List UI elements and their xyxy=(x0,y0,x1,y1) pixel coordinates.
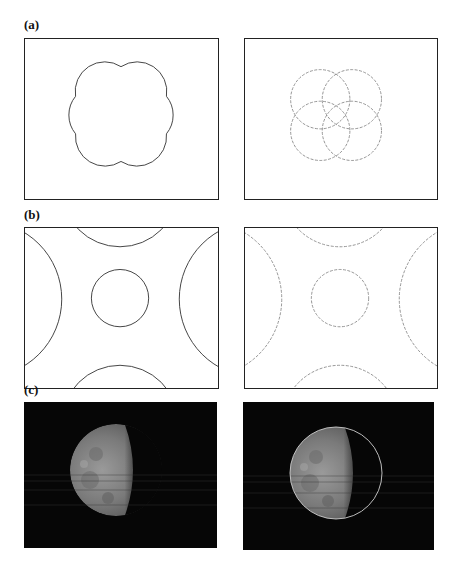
five-circles-dashed-figure xyxy=(245,228,437,388)
panel-b-right-five-circles-dashed xyxy=(244,227,438,389)
panel-c-left-moon-photo xyxy=(24,402,217,548)
row-label-b: (b) xyxy=(24,208,40,221)
panel-a-right-detected-circles xyxy=(244,38,438,200)
row-label-a: (a) xyxy=(24,18,39,31)
moon-photo-figure xyxy=(24,402,217,548)
cloverleaf-outline-figure xyxy=(25,39,218,199)
panel-c-right-moon-with-fit-circle xyxy=(243,402,434,550)
detected-circles-figure xyxy=(245,39,437,199)
panel-b-left-five-circles xyxy=(24,227,219,389)
row-label-c: (c) xyxy=(24,383,38,396)
moon-photo-fit-circle-figure xyxy=(243,402,434,550)
five-circles-solid-figure xyxy=(25,228,218,388)
panel-a-left-cloverleaf xyxy=(24,38,219,200)
